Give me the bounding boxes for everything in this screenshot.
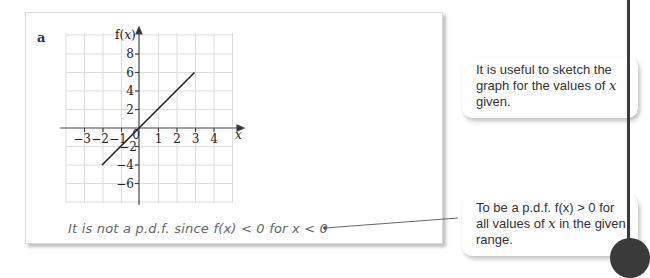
margin-note-sketch: It is useful to sketch the graph for the… bbox=[462, 57, 638, 118]
page-corner-tab bbox=[610, 238, 650, 278]
note-text: given. bbox=[476, 94, 511, 109]
note-variable: x bbox=[548, 216, 555, 231]
margin-note-pdf-condition: To be a p.d.f. f(x) > 0 for all values o… bbox=[462, 195, 638, 256]
page-edge-bar bbox=[627, 0, 630, 259]
note-text: It is useful to sketch the graph for the… bbox=[476, 62, 612, 93]
note-variable: x bbox=[609, 78, 616, 93]
